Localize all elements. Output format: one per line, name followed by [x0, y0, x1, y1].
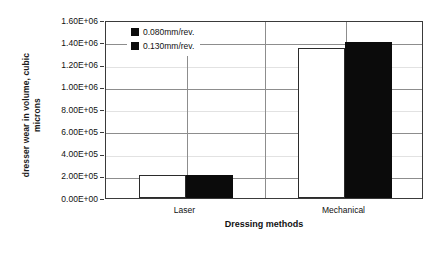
bar-laser-series-0: [139, 175, 186, 198]
y-axis-title-line1: dresser wear in volume, cubic: [21, 53, 31, 177]
y-axis-tick-mark: [100, 132, 104, 133]
legend-label-series-0: 0.080mm/rev.: [143, 28, 194, 37]
y-axis-tick-label: 1.00E+06: [61, 83, 98, 92]
y-axis-tick-label: 2.00E+05: [61, 172, 98, 181]
legend-item-1: 0.130mm/rev.: [131, 39, 194, 53]
y-axis-tick-label: 0.00E+00: [61, 195, 98, 204]
legend-item-0: 0.080mm/rev.: [131, 25, 194, 39]
bar-mechanical-series-0: [298, 48, 345, 198]
y-axis-tick-mark: [100, 199, 104, 200]
y-axis-tick-mark: [100, 21, 104, 22]
y-axis-tick-label: 1.20E+06: [61, 61, 98, 70]
x-axis-title: Dressing methods: [105, 219, 423, 229]
y-axis-tick-mark: [100, 155, 104, 156]
bar-chart: dresser wear in volume, cubic microns 1.…: [0, 0, 439, 256]
x-axis-tick-label-mechanical: Mechanical: [294, 205, 394, 215]
y-axis-tick-label: 1.40E+06: [61, 39, 98, 48]
y-axis-tick-labels: 1.60E+061.40E+061.20E+061.00E+068.00E+05…: [38, 0, 102, 256]
bar-laser-series-1: [186, 175, 233, 198]
x-axis-tick-label-laser: Laser: [135, 205, 235, 215]
y-axis-tick-label: 1.60E+06: [61, 17, 98, 26]
y-axis-tick-mark: [100, 43, 104, 44]
legend-swatch-icon-series-0: [131, 28, 139, 36]
y-axis-tick-mark: [100, 110, 104, 111]
legend: 0.080mm/rev. 0.130mm/rev.: [127, 22, 200, 56]
y-axis-tick-mark: [100, 88, 104, 89]
category-separator: [265, 22, 266, 198]
y-axis-tick-mark: [100, 177, 104, 178]
bar-mechanical-series-1: [345, 42, 392, 198]
legend-swatch-icon-series-1: [131, 42, 139, 50]
y-axis-tick-label: 6.00E+05: [61, 128, 98, 137]
y-axis-tick-label: 4.00E+05: [61, 150, 98, 159]
y-axis-tick-mark: [100, 66, 104, 67]
legend-label-series-1: 0.130mm/rev.: [143, 42, 194, 51]
y-axis-tick-label: 8.00E+05: [61, 106, 98, 115]
